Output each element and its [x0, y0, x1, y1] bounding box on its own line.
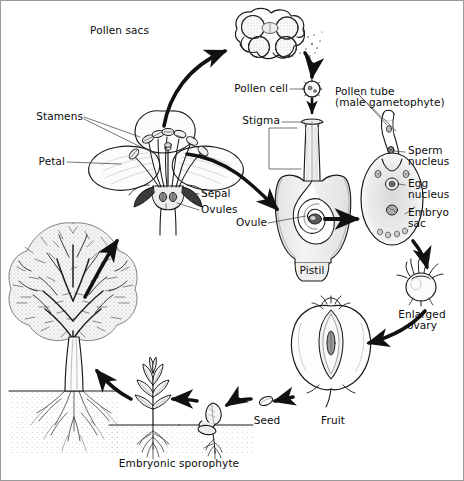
flower-illustration	[89, 111, 244, 235]
pollen-sacs-illustration	[235, 8, 322, 58]
enlarged-ovary-illustration	[397, 258, 443, 306]
label-stigma: Stigma	[216, 115, 280, 127]
pollen-cell-illustration	[302, 79, 322, 99]
label-enlarged-ovary-line2: ovary	[387, 320, 457, 332]
label-pollen-tube-line2: (male gametophyte)	[335, 97, 445, 109]
diagram-canvas	[1, 1, 464, 481]
seed-illustration	[258, 395, 274, 408]
life-cycle-diagram: Pollen sacs Pollen cell Pollen tube (mal…	[0, 0, 464, 481]
label-ovule: Ovule	[225, 217, 267, 229]
label-pollen-cell: Pollen cell	[216, 83, 288, 95]
label-pistil: Pistil	[289, 265, 335, 277]
label-pollen-sacs: Pollen sacs	[71, 25, 149, 37]
pistil-illustration	[275, 119, 351, 281]
seedling-illustration	[109, 357, 179, 459]
label-sperm-nucleus-line2: nucleus	[408, 156, 449, 168]
label-embryo-sac-line2: sac	[408, 218, 426, 230]
germinating-seed-illustration	[179, 403, 253, 459]
label-ovules: Ovules	[201, 204, 238, 216]
label-petal: Petal	[21, 156, 65, 168]
label-fruit: Fruit	[311, 415, 355, 427]
mature-tree-illustration	[9, 223, 137, 453]
label-stamens: Stamens	[19, 111, 83, 123]
label-embryonic-sporophyte: Embryonic sporophyte	[99, 458, 259, 470]
label-sepal: Sepal	[201, 188, 231, 200]
fruit-illustration	[291, 296, 370, 407]
label-seed: Seed	[245, 415, 289, 427]
label-egg-nucleus-line2: nucleus	[408, 189, 449, 201]
